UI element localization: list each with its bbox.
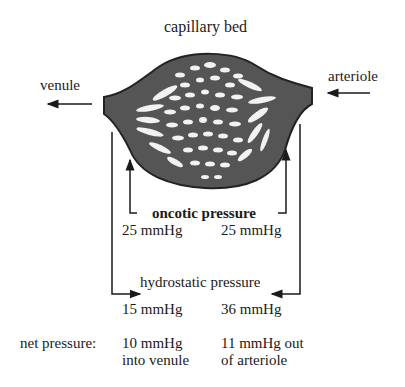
- net-arteriole-line2: of arteriole: [221, 352, 287, 369]
- net-arteriole-line1: 11 mmHg out: [221, 335, 304, 352]
- hydrostatic-pressure-label: hydrostatic pressure: [140, 274, 260, 291]
- diagram-title: capillary bed: [164, 18, 247, 35]
- oncotic-venule-arrow-icon: [130, 160, 137, 213]
- hydrostatic-arteriole-value: 36 mmHg: [221, 301, 281, 318]
- arteriole-label: arteriole: [328, 68, 378, 85]
- venule-label: venule: [40, 77, 80, 94]
- oncotic-pressure-label: oncotic pressure: [152, 205, 256, 222]
- capillary-bed-shape: [104, 54, 312, 188]
- net-venule-line1: 10 mmHg: [122, 335, 182, 352]
- oncotic-arteriole-value: 25 mmHg: [221, 222, 281, 239]
- net-venule-line2: into venule: [122, 352, 189, 369]
- hydrostatic-venule-value: 15 mmHg: [122, 301, 182, 318]
- net-pressure-label: net pressure:: [20, 335, 96, 352]
- oncotic-venule-value: 25 mmHg: [122, 222, 182, 239]
- diagram-canvas: [0, 0, 405, 387]
